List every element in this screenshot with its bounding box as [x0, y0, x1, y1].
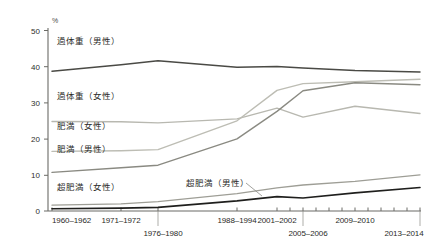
- y-tick-label-40: 40: [31, 63, 40, 72]
- y-tick-label-30: 30: [31, 99, 40, 108]
- y-axis-ticks: [44, 31, 48, 212]
- x-tick-label-2001-2002: 2001–2002: [257, 216, 297, 225]
- x-tick-label-2009-2010: 2009–2010: [335, 216, 375, 225]
- x-tick-label-2013-2014: 2013–2014: [384, 229, 424, 238]
- x-tick-label-2005-2006: 2005–2006: [288, 229, 328, 238]
- y-tick-label-0: 0: [36, 207, 41, 216]
- series-label-severely-obese-female: 超肥満（女性）: [57, 182, 120, 192]
- x-tick-label-1971-1972: 1971–1972: [101, 216, 141, 225]
- series-label-overweight-female: 過体重（女性）: [57, 91, 120, 101]
- x-tick-label-1976-1980: 1976–1980: [143, 229, 183, 238]
- series-label-overweight-male: 過体重（男性）: [57, 36, 120, 46]
- series-label-obese-male: 肥満（男性）: [57, 144, 111, 154]
- y-tick-label-20: 20: [31, 135, 40, 144]
- series-label-obese-female: 肥満（女性）: [57, 121, 111, 131]
- chart-svg: 50 40 30 20 10 0 %: [0, 0, 432, 246]
- x-tick-label-1960-1962: 1960–1962: [52, 216, 92, 225]
- x-tick-label-1988-1994: 1988–1994: [217, 216, 257, 225]
- line-chart: 50 40 30 20 10 0 %: [0, 0, 432, 246]
- series-label-severely-obese-male: 超肥満（男性）: [186, 178, 249, 188]
- y-axis-unit-label: %: [52, 17, 58, 24]
- series-line: [52, 61, 420, 72]
- y-tick-label-10: 10: [31, 171, 40, 180]
- y-tick-label-50: 50: [31, 27, 40, 36]
